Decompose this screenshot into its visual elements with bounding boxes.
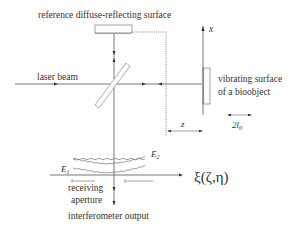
e2-label: E2 bbox=[150, 149, 160, 160]
interferometer-diagram: reference diffuse-reflecting surface las… bbox=[0, 0, 303, 231]
arrow-up-icon bbox=[113, 58, 116, 62]
laser-beam-label: laser beam bbox=[37, 72, 78, 82]
arrow-right-icon bbox=[179, 174, 183, 177]
reference-surface bbox=[95, 25, 132, 34]
bioobject-label-line2: of a bioobject bbox=[218, 87, 271, 97]
reference-surface-label: reference diffuse-reflecting surface bbox=[38, 10, 171, 20]
arrow-up-icon bbox=[202, 25, 205, 31]
e1-label: E1 bbox=[60, 164, 70, 175]
plane-coords-label: ξ(ζ,η) bbox=[194, 169, 228, 186]
interferometer-output-label: interferometer output bbox=[68, 211, 149, 221]
beam-splitter bbox=[95, 63, 130, 108]
wavefront-e1-drawn bbox=[73, 165, 145, 173]
arrow-right-icon bbox=[54, 83, 58, 86]
x-axis-label: x bbox=[208, 24, 214, 34]
arrow-down-icon bbox=[113, 187, 116, 191]
aperture-label-line2: aperture bbox=[71, 195, 102, 205]
arrow-left-icon bbox=[158, 83, 162, 86]
z-label: z bbox=[180, 119, 185, 129]
amplitude-arrow bbox=[227, 114, 252, 117]
bioobject-label-line1: vibrating surface bbox=[218, 74, 282, 84]
arrow-down-icon bbox=[113, 201, 116, 205]
amplitude-label: 2l0 bbox=[232, 120, 242, 131]
aperture-label-line1: receiving bbox=[68, 183, 104, 193]
arrow-right-icon bbox=[142, 83, 146, 86]
arrow-down-icon bbox=[113, 51, 116, 55]
z-dimension bbox=[167, 130, 203, 133]
bioobject-surface bbox=[203, 68, 210, 104]
